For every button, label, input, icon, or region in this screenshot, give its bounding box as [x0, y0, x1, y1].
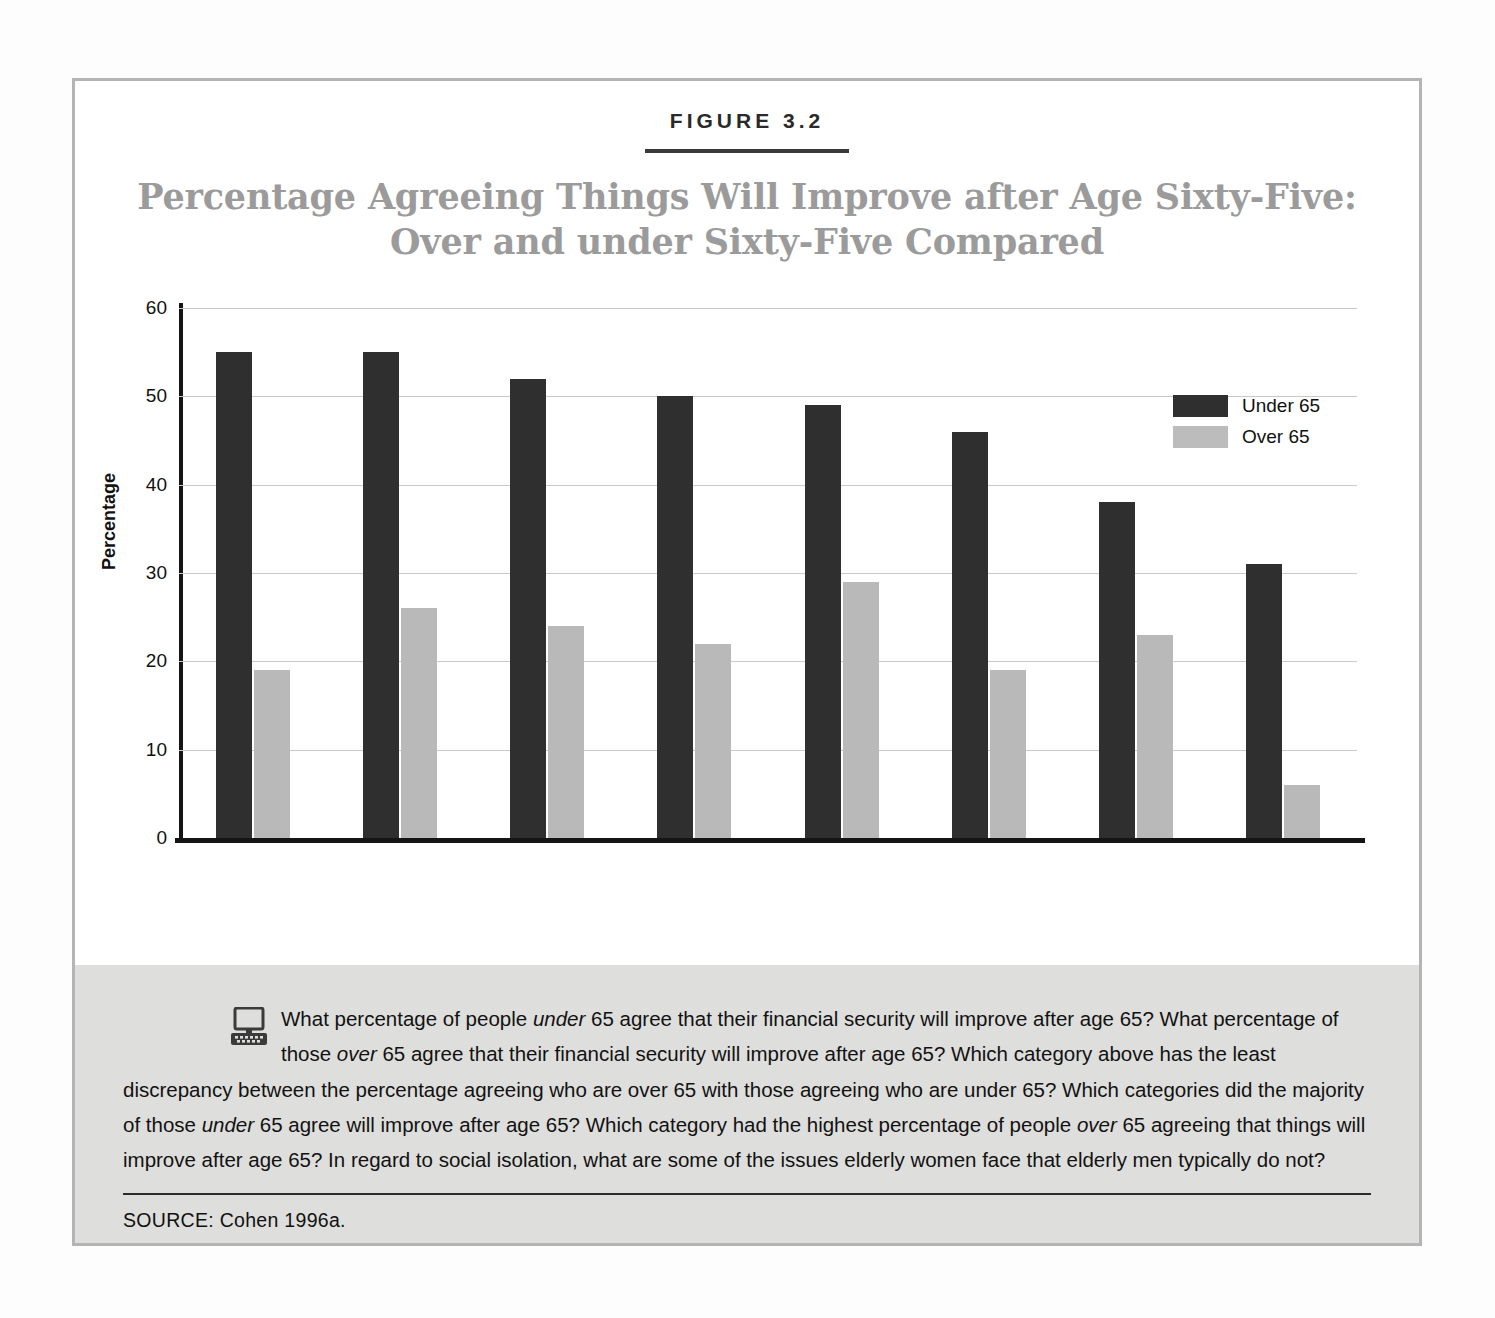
bar-under-65 — [952, 432, 988, 838]
source-line: SOURCE: Cohen 1996a. — [123, 1209, 1371, 1232]
bar-over-65 — [1137, 635, 1173, 838]
caption-panel: What percentage of people under 65 agree… — [75, 965, 1419, 1243]
bar-under-65 — [1246, 564, 1282, 838]
y-axis-tick-label: 0 — [107, 827, 167, 849]
gridline — [179, 661, 1357, 662]
y-axis-tick-label: 10 — [107, 739, 167, 761]
computer-icon — [231, 1007, 267, 1047]
bar-under-65 — [510, 379, 546, 838]
figure-frame: FIGURE 3.2 Percentage Agreeing Things Wi… — [72, 78, 1422, 1246]
legend-swatch-over-65 — [1173, 426, 1228, 448]
x-axis-line — [175, 838, 1365, 843]
y-axis-tick-label: 40 — [107, 474, 167, 496]
gridline — [179, 485, 1357, 486]
legend-label-over-65: Over 65 — [1242, 426, 1310, 448]
bar-under-65 — [805, 405, 841, 838]
bar-over-65 — [843, 582, 879, 838]
bar-under-65 — [216, 352, 252, 838]
bar-over-65 — [254, 670, 290, 838]
caption-divider — [123, 1193, 1371, 1195]
y-axis-tick-label: 60 — [107, 297, 167, 319]
chart-legend: Under 65 Over 65 — [1173, 395, 1320, 457]
bar-under-65 — [363, 352, 399, 838]
bar-over-65 — [990, 670, 1026, 838]
y-axis-tick-label: 50 — [107, 385, 167, 407]
legend-swatch-under-65 — [1173, 395, 1228, 417]
bar-over-65 — [401, 608, 437, 838]
bar-over-65 — [548, 626, 584, 838]
caption-body: What percentage of people under 65 agree… — [123, 1001, 1371, 1177]
gridline — [179, 573, 1357, 574]
caption-text: What percentage of people under 65 agree… — [123, 1007, 1365, 1171]
y-axis-tick-label: 30 — [107, 562, 167, 584]
gridline — [179, 308, 1357, 309]
plot-area: 0102030405060 Your financial securityYou… — [179, 308, 1357, 838]
bar-under-65 — [657, 396, 693, 838]
bar-over-65 — [1284, 785, 1320, 838]
legend-label-under-65: Under 65 — [1242, 395, 1320, 417]
gridline — [179, 750, 1357, 751]
bar-over-65 — [695, 644, 731, 838]
bar-under-65 — [1099, 502, 1135, 838]
legend-item-under-65: Under 65 — [1173, 395, 1320, 417]
legend-item-over-65: Over 65 — [1173, 426, 1320, 448]
bar-chart: Percentage 0102030405060 Your financial … — [75, 81, 1425, 971]
y-axis-tick-label: 20 — [107, 650, 167, 672]
